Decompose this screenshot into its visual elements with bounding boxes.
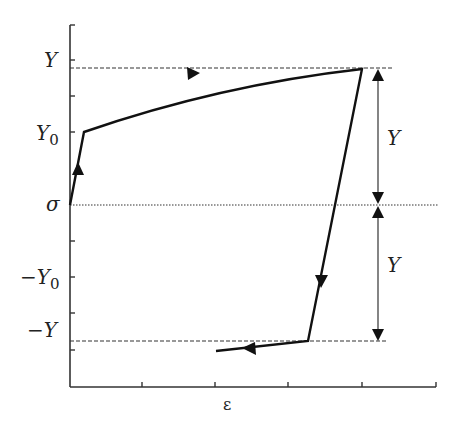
stress-strain-diagram: Y Y0 σ −Y0 −Y ε Y Y: [0, 0, 460, 431]
stress-strain-path: [70, 69, 362, 351]
dimension-upper: [372, 69, 384, 204]
dimension-lower: [372, 206, 384, 341]
label-y: Y: [44, 48, 59, 72]
arrow-down-icon: [315, 275, 328, 288]
label-y0: Y0: [36, 121, 59, 149]
dim-arrow-up-icon: [372, 206, 384, 218]
dim-arrow-down-icon: [372, 192, 384, 204]
label-neg-y: −Y: [27, 318, 59, 342]
label-dim-upper: Y: [387, 126, 402, 150]
dim-arrow-down-icon: [372, 329, 384, 341]
label-sigma: σ: [46, 192, 61, 216]
label-dim-lower: Y: [387, 253, 402, 277]
arrow-right-icon: [187, 67, 200, 80]
dim-arrow-up-icon: [372, 69, 384, 81]
label-epsilon: ε: [223, 395, 231, 414]
arrow-up-icon: [72, 162, 84, 175]
arrow-left-icon: [242, 342, 256, 355]
label-neg-y0: −Y0: [20, 265, 60, 293]
